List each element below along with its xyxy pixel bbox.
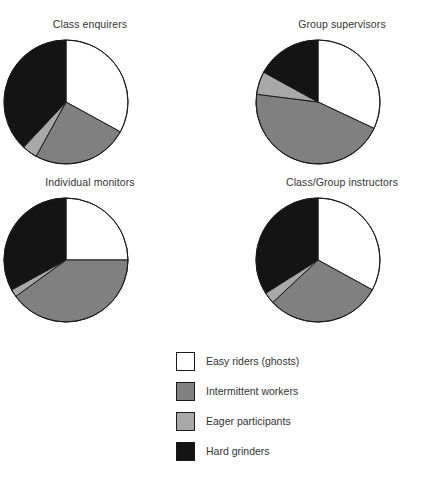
- pie-svg-2: [252, 36, 384, 168]
- pie-chart-1: [0, 36, 180, 168]
- pie-svg-1: [0, 36, 132, 168]
- legend-item: Hard grinders: [176, 436, 299, 466]
- legend-item: Intermittent workers: [176, 376, 299, 406]
- pie-svg-4: [252, 194, 384, 326]
- panel-title: Group supervisors: [252, 18, 432, 30]
- chart-legend: Easy riders (ghosts) Intermittent worker…: [176, 346, 299, 466]
- panel-title: Class enquirers: [0, 18, 180, 30]
- pie-chart-figure: Class enquirers Group supervisors Indivi…: [0, 0, 444, 488]
- pie-panel-class-enquirers: Class enquirers: [0, 18, 180, 168]
- pie-slice: [66, 198, 128, 260]
- pie-chart-3: [0, 194, 180, 326]
- legend-label: Easy riders (ghosts): [206, 355, 299, 367]
- pie-panel-class-group-instructors: Class/Group instructors: [252, 176, 432, 326]
- pie-chart-4: [252, 194, 432, 326]
- pie-svg-3: [0, 194, 132, 326]
- legend-item: Easy riders (ghosts): [176, 346, 299, 376]
- legend-label: Hard grinders: [206, 445, 270, 457]
- legend-label: Eager participants: [206, 415, 291, 427]
- panel-title: Individual monitors: [0, 176, 180, 188]
- pie-panel-individual-monitors: Individual monitors: [0, 176, 180, 326]
- legend-swatch-gray: [176, 382, 195, 401]
- legend-swatch-white: [176, 352, 195, 371]
- pie-chart-2: [252, 36, 432, 168]
- pie-panel-group-supervisors: Group supervisors: [252, 18, 432, 168]
- legend-swatch-black: [176, 442, 195, 461]
- legend-item: Eager participants: [176, 406, 299, 436]
- legend-swatch-light-gray: [176, 412, 195, 431]
- legend-label: Intermittent workers: [206, 385, 298, 397]
- panel-title: Class/Group instructors: [252, 176, 432, 188]
